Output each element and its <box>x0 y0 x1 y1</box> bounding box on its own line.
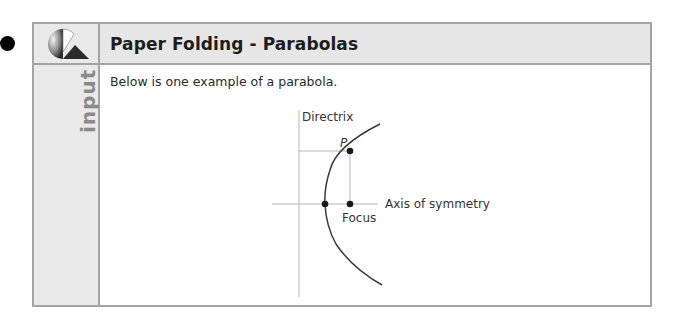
point-p-dot <box>347 148 354 155</box>
axis-label: Axis of symmetry <box>385 197 490 211</box>
directrix-label: Directrix <box>302 110 353 124</box>
vertex-dot <box>322 201 329 208</box>
focus-dot <box>347 201 354 208</box>
focus-label: Focus <box>342 211 376 225</box>
parabola-diagram: Directrix P Focus Axis of symmetry <box>0 0 683 331</box>
point-p-label: P <box>340 136 348 150</box>
